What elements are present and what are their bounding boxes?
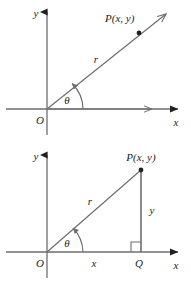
angle-arc <box>73 228 83 252</box>
y-axis-label: y <box>33 7 39 19</box>
y-axis-label: y <box>33 150 39 162</box>
angle-label: θ <box>64 94 70 106</box>
opposite-leg-label: y <box>149 204 155 216</box>
hypotenuse-label: r <box>88 195 93 207</box>
diagram-right-triangle: y x O P(x, y) r θ x y Q <box>0 143 191 285</box>
point-p-label: P(x, y) <box>125 151 156 164</box>
x-axis-label: x <box>173 259 179 271</box>
hypotenuse-segment <box>47 170 141 252</box>
x-axis-label: x <box>173 116 179 128</box>
point-p-marker <box>139 168 144 173</box>
point-p-marker <box>137 31 142 36</box>
radius-label: r <box>94 53 99 65</box>
foot-point-label: Q <box>135 257 143 269</box>
origin-label: O <box>36 114 44 126</box>
angle-label: θ <box>64 237 70 249</box>
adjacent-leg-label: x <box>91 257 97 269</box>
figure-root: y x O P(x, y) r θ <box>0 0 191 285</box>
point-p-label: P(x, y) <box>104 12 135 25</box>
right-angle-marker <box>131 242 141 252</box>
origin-label: O <box>36 257 44 269</box>
diagram-polar-ray: y x O P(x, y) r θ <box>0 0 191 142</box>
